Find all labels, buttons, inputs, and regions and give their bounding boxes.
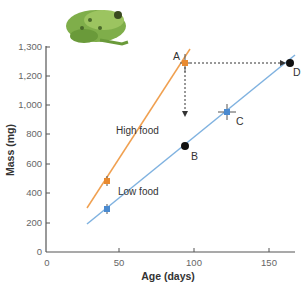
- x-ticks: 0 50 100 150: [44, 248, 277, 268]
- chart: 1,300 1,200 1,000 800 600 400 200 0 0 50…: [0, 0, 302, 287]
- svg-text:1,200: 1,200: [18, 70, 42, 81]
- svg-text:800: 800: [26, 128, 42, 139]
- label-c: C: [236, 115, 244, 127]
- svg-text:1,000: 1,000: [18, 99, 42, 110]
- svg-text:400: 400: [26, 187, 42, 198]
- svg-text:50: 50: [114, 257, 125, 268]
- svg-text:150: 150: [261, 257, 277, 268]
- svg-text:600: 600: [26, 158, 42, 169]
- svg-text:1,300: 1,300: [18, 41, 42, 52]
- high-food-label: High food: [116, 125, 159, 136]
- svg-text:0: 0: [37, 246, 42, 257]
- high-food-points: [104, 54, 190, 186]
- x-axis-label: Age (days): [141, 270, 195, 282]
- low-food-line: [87, 55, 295, 224]
- point-b: [181, 142, 189, 150]
- y-axis-label: Mass (mg): [4, 124, 16, 176]
- svg-text:0: 0: [44, 257, 49, 268]
- chart-svg: 1,300 1,200 1,000 800 600 400 200 0 0 50…: [0, 0, 302, 287]
- svg-text:100: 100: [186, 257, 202, 268]
- label-d: D: [293, 66, 301, 78]
- y-ticks: 1,300 1,200 1,000 800 600 400 200 0: [18, 41, 50, 257]
- label-a: A: [173, 50, 180, 62]
- svg-text:200: 200: [26, 217, 42, 228]
- frog-icon: [66, 10, 128, 44]
- low-food-label: Low food: [118, 186, 159, 197]
- label-b: B: [191, 150, 198, 162]
- low-food-points: [104, 104, 236, 214]
